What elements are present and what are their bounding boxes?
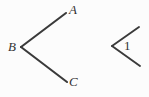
ray-b-to-a [21, 13, 66, 47]
vertex-label-b: B [8, 40, 16, 53]
geometry-figure-canvas: A B C 1 [0, 0, 149, 97]
angle-abc-group [21, 13, 67, 82]
vertex-label-c: C [69, 75, 78, 88]
angle-label-1: 1 [124, 39, 131, 52]
vertex-label-a: A [69, 3, 77, 16]
ray-b-to-c [21, 47, 67, 82]
